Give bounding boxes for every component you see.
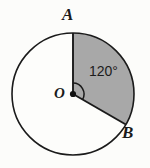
center-point-dot — [70, 91, 76, 97]
point-label-b: B — [122, 124, 133, 141]
circle-sector-drawing — [0, 0, 150, 168]
circle-sector-figure: A O B 120° — [0, 0, 150, 168]
center-label-o: O — [54, 86, 65, 101]
point-label-a: A — [62, 6, 73, 23]
angle-measure-label: 120° — [89, 64, 118, 78]
